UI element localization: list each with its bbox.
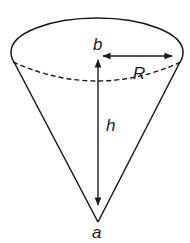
cone-rim-right-edge	[180, 52, 183, 62]
cone-rim-left-edge	[11, 52, 14, 62]
label-b: b	[93, 35, 102, 54]
cone-right-side	[98, 62, 180, 222]
label-h: h	[106, 116, 115, 135]
cone-top-rim-hidden	[13, 62, 181, 81]
cone-left-side	[14, 62, 98, 222]
label-R: R	[133, 64, 145, 83]
label-a: a	[92, 223, 101, 242]
cone-diagram: b R h a	[0, 0, 190, 243]
